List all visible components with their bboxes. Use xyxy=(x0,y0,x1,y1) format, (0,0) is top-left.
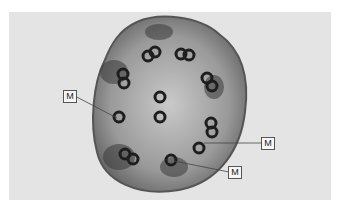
micrograph: M M M xyxy=(9,12,331,200)
label-m-bottom: M xyxy=(228,166,242,179)
label-m-left: M xyxy=(63,90,77,103)
cilium-cross-section xyxy=(9,12,331,200)
label-m-right: M xyxy=(261,137,275,150)
